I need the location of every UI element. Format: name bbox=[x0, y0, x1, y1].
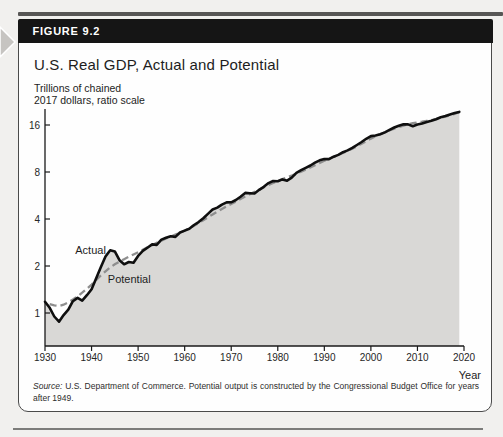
arrow-triangle bbox=[0, 27, 15, 57]
y-tick-label-2: 2 bbox=[34, 261, 40, 272]
x-tick-label-2020: 2020 bbox=[453, 352, 476, 363]
source-note: Source: U.S. Department of Commerce. Pot… bbox=[33, 381, 479, 404]
series-label-potential: Potential bbox=[108, 273, 151, 285]
actual-area-fill bbox=[45, 112, 459, 346]
figure-pointer-arrow-icon bbox=[0, 26, 17, 59]
cropped-content-above-strip bbox=[18, 12, 503, 16]
x-tick-label-1950: 1950 bbox=[127, 352, 150, 363]
source-label: Source: bbox=[33, 381, 62, 391]
figure-box: FIGURE 9.2 U.S. Real GDP, Actual and Pot… bbox=[18, 19, 492, 412]
bottom-page-rule bbox=[13, 428, 483, 430]
x-tick-label-1940: 1940 bbox=[80, 352, 103, 363]
x-tick-label-1970: 1970 bbox=[220, 352, 243, 363]
textbook-page: FIGURE 9.2 U.S. Real GDP, Actual and Pot… bbox=[0, 0, 503, 437]
y-tick-label-1: 1 bbox=[34, 308, 40, 319]
y-tick-label-8: 8 bbox=[34, 167, 40, 178]
y-tick-label-16: 16 bbox=[29, 120, 41, 131]
gdp-chart: 1248161930194019501960197019801990200020… bbox=[19, 20, 490, 410]
x-tick-label-1930: 1930 bbox=[34, 352, 57, 363]
x-tick-label-2000: 2000 bbox=[360, 352, 383, 363]
x-tick-label-1980: 1980 bbox=[267, 352, 290, 363]
x-tick-label-2010: 2010 bbox=[406, 352, 429, 363]
y-tick-label-4: 4 bbox=[34, 214, 40, 225]
x-tick-label-1990: 1990 bbox=[313, 352, 336, 363]
x-axis-title: Year bbox=[459, 369, 482, 381]
series-label-actual: Actual bbox=[75, 244, 106, 256]
source-text: U.S. Department of Commerce. Potential o… bbox=[33, 381, 479, 403]
x-tick-label-1960: 1960 bbox=[174, 352, 197, 363]
